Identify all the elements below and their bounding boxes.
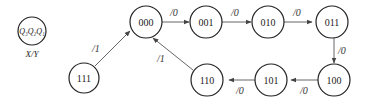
state-110: 110 xyxy=(191,64,223,96)
state-label: 110 xyxy=(200,75,215,86)
transition-010-011: /0 xyxy=(284,7,312,22)
state-label: 100 xyxy=(327,75,342,86)
state-000: 000 xyxy=(130,6,162,38)
legend-state-label: Q₃Q₂Q₁ xyxy=(19,27,45,36)
transition-000-001: /0 xyxy=(162,7,189,22)
state-label: 101 xyxy=(264,75,279,86)
legend-io-label: X/Y xyxy=(24,49,39,59)
transition-label: /1 xyxy=(156,53,165,64)
state-010: 010 xyxy=(252,6,284,38)
state-label: 111 xyxy=(77,73,91,84)
state-label: 011 xyxy=(325,17,340,28)
transition-111-000: /1 xyxy=(91,31,130,66)
state-diagram: Q₃Q₂Q₁ X/Y /0 /0 /0 /0 /0 /0 /1 /1 000 xyxy=(0,0,370,104)
legend: Q₃Q₂Q₁ X/Y xyxy=(18,17,46,59)
state-label: 010 xyxy=(261,17,276,28)
state-101: 101 xyxy=(255,64,287,96)
transition-label: /0 xyxy=(169,7,178,18)
transition-011-100: /0 xyxy=(334,38,346,63)
state-001: 001 xyxy=(190,6,222,38)
transition-110-000: /1 xyxy=(153,38,193,70)
transition-label: /1 xyxy=(91,43,100,54)
transition-101-110: /0 xyxy=(229,80,255,96)
transition-label: /0 xyxy=(292,7,301,18)
transition-label: /0 xyxy=(235,85,244,96)
transition-label: /0 xyxy=(299,85,308,96)
transition-label: /0 xyxy=(337,45,346,56)
transition-label: /0 xyxy=(230,7,239,18)
state-label: 000 xyxy=(139,17,154,28)
legend-state-circle: Q₃Q₂Q₁ xyxy=(18,17,46,45)
state-111: 111 xyxy=(69,63,99,93)
transition-001-010: /0 xyxy=(222,7,251,22)
state-diagram-svg: Q₃Q₂Q₁ X/Y /0 /0 /0 /0 /0 /0 /1 /1 000 xyxy=(0,0,370,104)
state-011: 011 xyxy=(316,6,348,38)
transition-100-101: /0 xyxy=(291,80,318,96)
state-100: 100 xyxy=(318,64,350,96)
state-label: 001 xyxy=(199,17,214,28)
